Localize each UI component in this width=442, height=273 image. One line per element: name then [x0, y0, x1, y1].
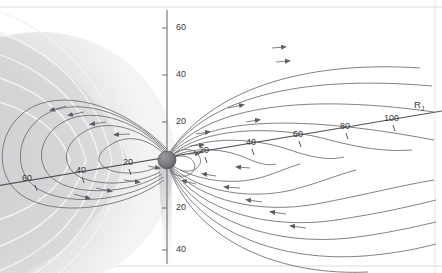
radial-axis-unit-label: RJ — [414, 99, 424, 112]
vertical-tick-label-20-up: 20 — [176, 116, 186, 126]
radial-tick-label-right-20: 20 — [199, 145, 209, 155]
vertical-tick-label-40-down: 40 — [176, 244, 186, 254]
vertical-tick-label-40-up: 40 — [176, 69, 186, 79]
radial-axis-unit-subscript: J — [421, 105, 424, 112]
radial-tick-label-right-100: 100 — [384, 113, 399, 123]
radial-tick-label-right-60: 60 — [293, 129, 303, 139]
magnetosphere-figure: 60 40 20 20 40 20 40 60 80 100 20 40 60 … — [0, 0, 442, 273]
radial-tick-label-left-20: 20 — [123, 157, 133, 167]
radial-axis-unit-text: R — [414, 99, 421, 110]
vertical-tick-label-60-up: 60 — [176, 22, 186, 32]
planet-jupiter — [158, 151, 176, 169]
radial-tick-label-left-60: 60 — [22, 173, 32, 183]
radial-tick-label-left-40: 40 — [76, 165, 86, 175]
vertical-tick-label-20-down: 20 — [176, 202, 186, 212]
field-line-plot — [0, 0, 442, 273]
radial-tick-label-right-80: 80 — [340, 121, 350, 131]
radial-tick-label-right-40: 40 — [246, 137, 256, 147]
